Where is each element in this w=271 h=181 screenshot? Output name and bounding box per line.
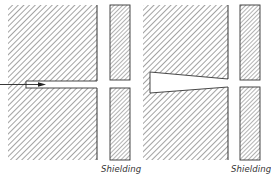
- left-shielding-label: Shielding: [101, 164, 141, 174]
- left-block-upper: [8, 5, 97, 88]
- right-panel: [143, 5, 260, 160]
- right-shielding-label: Shielding: [231, 164, 271, 174]
- left-panel: [0, 5, 130, 160]
- left-shielding-lower: [110, 88, 130, 160]
- right-shielding-lower: [240, 87, 260, 160]
- diagram-canvas: [0, 0, 271, 181]
- left-block-lower: [8, 88, 97, 160]
- right-block-lower: [143, 87, 228, 160]
- left-shielding-upper: [110, 5, 130, 80]
- right-shielding-upper: [240, 5, 260, 80]
